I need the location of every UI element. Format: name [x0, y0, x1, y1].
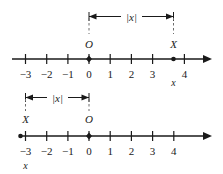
tick-label--2: −2	[41, 68, 53, 80]
tick-label-4: 4	[171, 145, 177, 157]
bottom-axis-arrowhead	[203, 132, 212, 140]
tick-label-0: 0	[86, 68, 92, 80]
bottom-number-line-panel: |x| X O −3 −2 −1 0 1	[0, 87, 223, 174]
top-measure-group: |x|	[89, 9, 174, 24]
tick-label--1: −1	[62, 68, 74, 80]
top-origin-label: O	[85, 38, 93, 50]
tick-label--3: −3	[20, 145, 32, 157]
bottom-marked-point	[18, 134, 23, 139]
top-tick-labels: −3 −2 −1 0 1 2 3 4	[20, 68, 188, 80]
top-measure-left-arrowhead	[89, 13, 97, 19]
bottom-point-label: X	[21, 113, 30, 125]
tick-label--1: −1	[62, 145, 74, 157]
tick-label-3: 3	[150, 145, 156, 157]
tick-label-1: 1	[107, 145, 113, 157]
top-origin-point	[86, 55, 92, 62]
tick-label-1: 1	[107, 68, 113, 80]
figure-container: |x| O X −3 −2 −1 0 1	[0, 0, 223, 174]
top-number-line-panel: |x| O X −3 −2 −1 0 1	[0, 0, 223, 87]
tick-label--2: −2	[41, 145, 53, 157]
bottom-axis-variable-label: x	[22, 160, 28, 171]
tick-label-2: 2	[129, 145, 135, 157]
tick-label-3: 3	[150, 68, 156, 80]
top-marked-point	[171, 57, 176, 62]
tick-label-4: 4	[182, 68, 188, 80]
tick-label-0: 0	[86, 145, 92, 157]
bottom-tick-labels: −3 −2 −1 0 1 2 3 4	[20, 145, 177, 157]
bottom-measure-left-arrowhead	[26, 94, 34, 100]
bottom-measure-right-arrowhead	[82, 94, 90, 100]
bottom-measure-group: |x|	[26, 90, 90, 105]
bottom-origin-label: O	[85, 113, 93, 125]
bottom-measure-label: |x|	[52, 92, 63, 104]
tick-label--3: −3	[20, 68, 32, 80]
bottom-origin-point	[86, 132, 92, 139]
top-measure-label: |x|	[126, 11, 137, 23]
top-axis-arrowhead	[203, 55, 212, 63]
tick-label-2: 2	[129, 68, 135, 80]
top-axis-variable-label: x	[170, 77, 176, 87]
top-point-label: X	[169, 38, 178, 50]
top-measure-right-arrowhead	[166, 13, 174, 19]
